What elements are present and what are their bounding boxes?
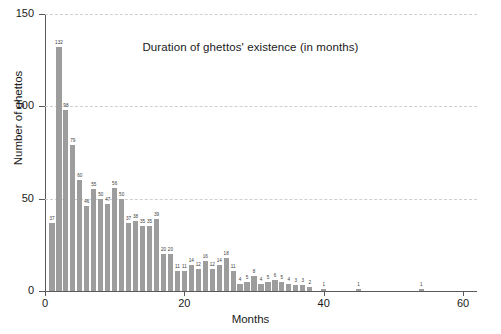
bar-value-label: 11 <box>182 265 187 270</box>
bar-value-label: 35 <box>140 220 145 225</box>
bar <box>119 199 124 291</box>
bar-value-label: 1 <box>420 283 423 288</box>
bar <box>182 271 187 291</box>
bar-value-label: 11 <box>175 265 180 270</box>
bar <box>356 289 361 291</box>
bar-value-label: 12 <box>196 263 201 268</box>
bar <box>307 287 312 291</box>
bar <box>286 284 291 291</box>
bar-value-label: 5 <box>267 276 270 281</box>
x-axis-tick-label: 20 <box>169 298 199 309</box>
bar <box>154 219 159 291</box>
bar-value-label: 37 <box>49 217 54 222</box>
bar-value-label: 38 <box>133 215 138 220</box>
bar-value-label: 98 <box>63 104 68 109</box>
bar-value-label: 5 <box>281 276 284 281</box>
bar <box>419 289 424 291</box>
bar <box>272 280 277 291</box>
bar <box>133 221 138 291</box>
bar <box>321 289 326 291</box>
bar-value-label: 1 <box>357 283 360 288</box>
bar <box>98 199 103 291</box>
bar <box>231 271 236 291</box>
bar-value-label: 18 <box>224 252 229 257</box>
bar-value-label: 2 <box>308 281 311 286</box>
bar-value-label: 5 <box>246 276 249 281</box>
x-axis-tick <box>324 291 325 296</box>
bar-value-label: 20 <box>168 248 173 253</box>
bar <box>91 189 96 291</box>
plot-area: 3713298796046555047565037383535392020111… <box>45 14 477 291</box>
bar-value-label: 50 <box>98 193 103 198</box>
bar-value-label: 55 <box>91 183 96 188</box>
bar-value-label: 4 <box>288 278 291 283</box>
gridline <box>45 106 477 107</box>
bar <box>203 261 208 291</box>
bar-value-label: 4 <box>260 278 263 283</box>
bar-value-label: 8 <box>253 270 256 275</box>
bar <box>189 265 194 291</box>
bar <box>168 254 173 291</box>
bar <box>293 285 298 291</box>
bar-value-label: 6 <box>274 274 277 279</box>
bar-value-label: 11 <box>231 265 236 270</box>
bar-value-label: 4 <box>239 278 242 283</box>
chart-container: 050100150 0204060 3713298796046555047565… <box>0 0 501 334</box>
x-axis-tick-label: 0 <box>30 298 60 309</box>
x-axis-line <box>45 291 477 292</box>
chart-title: Duration of ghettos' existence (in month… <box>0 41 501 53</box>
bar <box>112 188 117 291</box>
x-axis-label: Months <box>0 313 501 325</box>
bar-value-label: 46 <box>84 200 89 205</box>
bar <box>279 282 284 291</box>
bar <box>210 269 215 291</box>
bar <box>217 265 222 291</box>
bar-value-label: 3 <box>302 279 305 284</box>
bar-value-label: 20 <box>161 248 166 253</box>
bar-value-label: 79 <box>70 139 75 144</box>
y-axis-tick-label: 50 <box>0 193 34 204</box>
bar <box>224 258 229 291</box>
x-axis-tick <box>45 291 46 296</box>
bar <box>147 226 152 291</box>
bar <box>300 285 305 291</box>
y-axis-label: Number of ghettos <box>12 48 24 188</box>
bar <box>237 284 242 291</box>
bar-value-label: 60 <box>77 174 82 179</box>
x-axis-tick-label: 40 <box>309 298 339 309</box>
bar-value-label: 1 <box>322 283 325 288</box>
bar-value-label: 47 <box>105 198 110 203</box>
bar <box>251 276 256 291</box>
bar-value-label: 14 <box>217 259 222 264</box>
bar <box>105 204 110 291</box>
bar-value-label: 50 <box>119 193 124 198</box>
bar <box>70 145 75 291</box>
bar-value-label: 35 <box>147 220 152 225</box>
y-axis-tick-label: 0 <box>0 285 34 296</box>
bar-value-label: 37 <box>126 217 131 222</box>
bar-value-label: 14 <box>189 259 194 264</box>
bar <box>56 47 61 291</box>
bar <box>265 282 270 291</box>
bar <box>196 269 201 291</box>
bar <box>140 226 145 291</box>
bar-value-label: 16 <box>203 255 208 260</box>
x-axis-tick <box>184 291 185 296</box>
bar <box>77 180 82 291</box>
bar <box>63 110 68 291</box>
bar <box>49 223 54 291</box>
bar <box>175 271 180 291</box>
bar <box>126 223 131 291</box>
bar <box>161 254 166 291</box>
x-axis-tick-label: 60 <box>448 298 478 309</box>
bar <box>84 206 89 291</box>
bar <box>244 282 249 291</box>
bar-value-label: 56 <box>112 182 117 187</box>
gridline <box>45 14 477 15</box>
y-axis-tick-label: 150 <box>0 8 34 19</box>
bar-value-label: 39 <box>154 213 159 218</box>
bar-value-label: 12 <box>210 263 215 268</box>
bar-value-label: 3 <box>295 279 298 284</box>
bar <box>258 284 263 291</box>
x-axis-tick <box>463 291 464 296</box>
